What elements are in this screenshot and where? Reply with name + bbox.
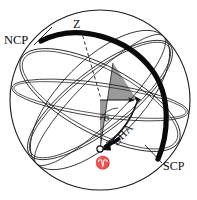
label-zenith: Z <box>73 17 80 31</box>
label-aries: ♈ <box>95 155 111 170</box>
celestial-sphere-diagram: NCP SCP Z α LHA ♈ <box>0 0 197 200</box>
label-ncp: NCP <box>4 33 28 47</box>
label-scp: SCP <box>163 159 185 173</box>
celestial-sphere-figure: NCP SCP Z α LHA ♈ <box>0 0 197 200</box>
vernal-equinox-point <box>97 146 103 152</box>
